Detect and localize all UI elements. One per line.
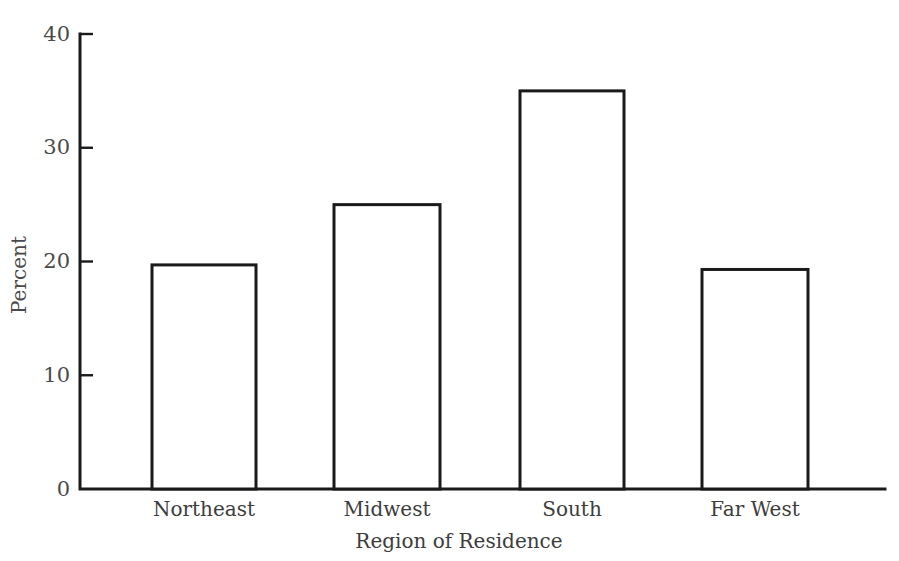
x-axis-title: Region of Residence	[355, 529, 562, 553]
x-category-label-south: South	[542, 497, 602, 521]
x-category-label-northeast: Northeast	[153, 497, 255, 521]
y-tick-label-20: 20	[43, 249, 70, 273]
y-tick-label-30: 30	[43, 135, 70, 159]
chart-canvas: 40 30 20 10 0 Percent Northeast Midwest …	[0, 0, 899, 561]
bar-northeast	[152, 265, 256, 489]
bar-midwest	[334, 205, 440, 489]
x-category-label-midwest: Midwest	[344, 497, 431, 521]
bar-chart-figure: 40 30 20 10 0 Percent Northeast Midwest …	[0, 0, 899, 561]
y-tick-label-40: 40	[43, 22, 70, 46]
x-category-label-far-west: Far West	[710, 497, 799, 521]
y-tick-label-0: 0	[57, 477, 70, 501]
bar-south	[520, 91, 624, 489]
y-tick-label-10: 10	[43, 363, 70, 387]
bar-far-west	[702, 269, 808, 489]
y-axis-title: Percent	[7, 236, 31, 314]
